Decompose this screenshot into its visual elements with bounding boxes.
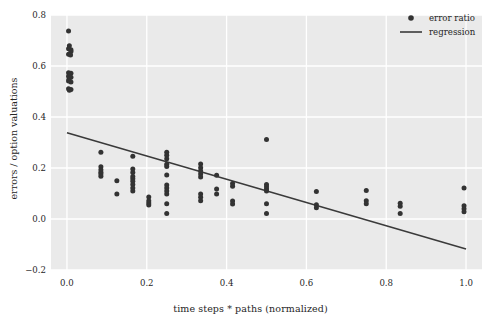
scatter-point — [264, 137, 269, 142]
scatter-point — [164, 164, 169, 169]
scatter-point — [164, 192, 169, 197]
scatter-point — [314, 205, 319, 210]
scatter-point — [67, 88, 72, 93]
scatter-point — [230, 184, 235, 189]
y-axis-label: errors / option valuations — [8, 69, 19, 209]
scatter-point — [164, 172, 169, 177]
scatter-point — [364, 188, 369, 193]
x-tick-label: 0.6 — [289, 278, 323, 288]
scatter-point — [214, 192, 219, 197]
x-tick-label: 0.2 — [130, 278, 164, 288]
scatter-point — [198, 174, 203, 179]
y-tick-label: 0.0 — [16, 214, 46, 224]
scatter-point — [98, 150, 103, 155]
scatter-point — [68, 53, 73, 58]
legend-label: error ratio — [429, 13, 475, 23]
y-tick-label: 0.2 — [16, 163, 46, 173]
scatter-point — [164, 156, 169, 161]
scatter-point — [230, 201, 235, 206]
legend-label: regression — [429, 27, 476, 37]
scatter-point — [264, 188, 269, 193]
scatter-point — [198, 198, 203, 203]
scatter-point — [264, 201, 269, 206]
scatter-point — [114, 178, 119, 183]
scatter-point — [164, 201, 169, 206]
y-tick-label: 0.6 — [16, 61, 46, 71]
y-axis-label-container: errors / option valuations — [0, 0, 26, 280]
scatter-point — [398, 204, 403, 209]
scatter-point — [146, 202, 151, 207]
scatter-point — [314, 189, 319, 194]
scatter-point — [364, 201, 369, 206]
scatter-point — [114, 192, 119, 197]
y-tick-label: 0.4 — [16, 112, 46, 122]
scatter-point — [264, 211, 269, 216]
scatter-point — [98, 174, 103, 179]
x-tick-label: 0.4 — [210, 278, 244, 288]
plot-background — [51, 15, 482, 270]
plot-panel — [51, 15, 482, 270]
y-tick-label: −0.2 — [16, 265, 46, 275]
scatter-point — [214, 173, 219, 178]
x-tick-label: 0.0 — [50, 278, 84, 288]
scatter-point — [66, 29, 71, 34]
legend-marker-dot-icon — [408, 15, 414, 21]
x-tick-label: 0.8 — [369, 278, 403, 288]
scatter-point — [164, 211, 169, 216]
scatter-point — [214, 186, 219, 191]
x-tick-label: 1.0 — [449, 278, 483, 288]
x-axis-label: time steps * paths (normalized) — [0, 303, 501, 314]
scatter-point — [398, 211, 403, 216]
y-tick-label: 0.8 — [16, 10, 46, 20]
scatter-point — [130, 154, 135, 159]
scatter-point — [462, 185, 467, 190]
scatter-point — [462, 209, 467, 214]
scatter-point — [130, 188, 135, 193]
scatter-point — [68, 80, 73, 85]
chart-figure: error ratioregression errors / option va… — [0, 0, 501, 328]
